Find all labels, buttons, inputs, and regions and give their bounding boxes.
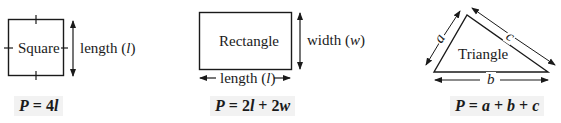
width-variable: w: [350, 32, 360, 48]
formula-var-2: w: [279, 97, 290, 114]
triangle-formula: P = a + b + c: [450, 96, 544, 116]
formula-plus-2: +: [515, 97, 532, 114]
formula-coef-1: 2: [242, 97, 250, 114]
triangle-side-b-label: b: [486, 72, 496, 87]
triangle-shape: [434, 15, 548, 72]
width-close: ): [360, 32, 365, 48]
formula-equals: =: [29, 97, 46, 114]
length-close: ): [270, 70, 275, 86]
formula-b: b: [507, 97, 515, 114]
length-text: length (: [220, 70, 266, 86]
length-text: length (: [80, 40, 126, 56]
formula-p: P: [215, 97, 225, 114]
width-text: width (: [307, 32, 350, 48]
formula-plus-1: +: [490, 97, 507, 114]
formula-p: P: [455, 97, 465, 114]
square-length-label: length (l): [80, 41, 135, 56]
formula-plus: +: [254, 97, 271, 114]
rectangle-length-label: length (l): [220, 71, 275, 86]
square-name-label: Square: [17, 41, 61, 56]
formula-var: l: [54, 97, 58, 114]
square-formula: P = 4l: [14, 96, 63, 116]
rectangle-width-label: width (w): [307, 33, 365, 48]
formula-equals: =: [225, 97, 242, 114]
length-close: ): [130, 40, 135, 56]
formula-p: P: [19, 97, 29, 114]
formula-equals: =: [465, 97, 482, 114]
triangle-name-label: Triangle: [458, 47, 508, 62]
formula-a: a: [482, 97, 490, 114]
rectangle-formula: P = 2l + 2w: [210, 96, 295, 116]
formula-c: c: [532, 97, 539, 114]
rectangle-name-label: Rectangle: [219, 34, 279, 49]
formula-coef: 4: [46, 97, 54, 114]
